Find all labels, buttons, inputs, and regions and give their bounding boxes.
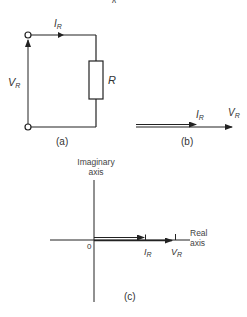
top-terminal [25, 32, 31, 38]
current-label-b: IR [196, 110, 204, 121]
resistor-symbol [89, 61, 103, 99]
phasor-diagram-b [136, 125, 232, 128]
real-axis-label: Real axis [190, 229, 207, 247]
voltage-label-b: VR [228, 108, 240, 119]
voltage-label-c: VR [171, 248, 182, 258]
current-label-a: IR [54, 19, 62, 30]
caption-c: (c) [124, 292, 136, 302]
cropped-glyph: ʌ [112, 0, 116, 5]
circuit-diagram [25, 32, 103, 130]
current-label-c: IR [144, 248, 152, 258]
origin-label: 0 [87, 243, 91, 251]
caption-b: (b) [181, 137, 193, 147]
bottom-terminal [25, 124, 31, 130]
current-arrow-icon [58, 32, 64, 38]
phasor-figure [0, 0, 247, 317]
resistor-label: R [108, 75, 116, 86]
voltage-label-a: VR [8, 77, 20, 89]
complex-plane [50, 180, 190, 302]
caption-a: (a) [56, 137, 68, 147]
imaginary-axis-label: Imaginary axis [70, 158, 122, 176]
